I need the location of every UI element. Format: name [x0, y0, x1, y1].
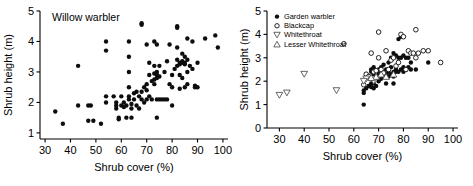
data-point-0	[53, 109, 57, 113]
data-point-0	[203, 36, 207, 40]
data-point-1	[376, 56, 381, 61]
data-point-0	[139, 90, 143, 94]
data-point-0	[127, 70, 131, 74]
data-point-0	[362, 102, 366, 106]
data-point-1	[386, 67, 391, 72]
x-tick-label: 40	[298, 133, 310, 145]
data-point-0	[145, 82, 149, 86]
data-point-0	[147, 73, 151, 77]
data-point-1	[426, 48, 431, 53]
x-tick-label: 80	[397, 133, 409, 145]
data-point-1	[416, 51, 421, 56]
data-point-0	[124, 115, 128, 119]
x-axis-title: Shrub cover (%)	[323, 150, 402, 162]
data-point-0	[167, 42, 171, 46]
data-point-0	[414, 67, 418, 71]
x-tick-label: 30	[273, 133, 285, 145]
panel-title: Willow warbler	[52, 11, 120, 23]
data-point-0	[145, 88, 149, 92]
data-point-0	[165, 59, 169, 63]
x-axis-title: Shrub cover (%)	[94, 161, 173, 173]
data-point-0	[147, 61, 151, 65]
data-point-0	[409, 67, 413, 71]
x-tick-label: 70	[141, 144, 153, 156]
data-point-0	[111, 94, 115, 98]
data-point-0	[162, 70, 166, 74]
data-point-0	[381, 63, 385, 67]
data-point-0	[104, 39, 108, 43]
data-point-0	[119, 94, 123, 98]
data-point-0	[127, 97, 131, 101]
y-axis-title: Shrub height (m)	[2, 34, 14, 116]
x-tick-label: 90	[191, 144, 203, 156]
data-point-0	[76, 103, 80, 107]
x-tick-label: 40	[64, 144, 76, 156]
panel-willow-warbler: 1234530405060708090100Shrub cover (%)Shr…	[0, 0, 237, 186]
data-point-0	[391, 81, 395, 85]
data-point-1	[391, 56, 396, 61]
data-point-0	[384, 81, 388, 85]
legend-label-0: Garden warbler	[284, 12, 335, 21]
data-point-0	[155, 42, 159, 46]
data-point-1	[404, 67, 409, 72]
data-point-0	[129, 102, 133, 106]
data-point-0	[170, 103, 174, 107]
data-point-0	[127, 39, 131, 43]
data-point-0	[183, 62, 187, 66]
data-point-0	[137, 106, 141, 110]
data-point-0	[132, 97, 136, 101]
legend-marker-0	[275, 14, 279, 18]
y-tick-label: 5	[255, 5, 261, 17]
data-point-1	[421, 48, 426, 53]
data-point-2	[276, 92, 283, 98]
y-tick-label: 3	[255, 52, 261, 64]
data-point-0	[175, 26, 179, 30]
data-point-0	[129, 106, 133, 110]
x-tick-label: 30	[39, 144, 51, 156]
data-point-0	[190, 39, 194, 43]
data-point-0	[155, 115, 159, 119]
data-point-0	[127, 85, 131, 89]
data-point-1	[411, 51, 416, 56]
data-point-1	[438, 60, 443, 65]
data-point-1	[376, 30, 381, 35]
legend-label-3: Lesser Whitethroat	[284, 40, 346, 49]
data-point-0	[185, 70, 189, 74]
data-point-0	[152, 64, 156, 68]
data-point-0	[178, 87, 182, 91]
data-point-0	[195, 85, 199, 89]
data-point-0	[409, 60, 413, 64]
data-point-0	[213, 33, 217, 37]
x-tick-label: 90	[422, 133, 434, 145]
y-tick-label: 5	[28, 5, 34, 17]
data-point-0	[180, 76, 184, 80]
y-tick-label: 1	[255, 99, 261, 111]
data-point-0	[157, 74, 161, 78]
data-point-0	[99, 122, 103, 126]
y-tick-label: 4	[28, 35, 34, 47]
data-point-0	[150, 97, 154, 101]
data-point-1	[369, 51, 374, 56]
data-point-0	[145, 42, 149, 46]
data-point-0	[139, 23, 143, 27]
data-point-0	[114, 100, 118, 104]
data-point-0	[165, 97, 169, 101]
data-point-0	[89, 103, 93, 107]
data-point-0	[170, 85, 174, 89]
y-tick-label: 4	[255, 28, 261, 40]
data-point-0	[76, 64, 80, 68]
panel-four-species: 01234530405060708090100Shrub cover (%)Sh…	[236, 0, 473, 186]
data-point-0	[406, 56, 410, 60]
data-point-0	[374, 84, 378, 88]
legend-label-1: Blackcap	[284, 21, 314, 30]
data-point-0	[127, 55, 131, 59]
data-point-0	[124, 103, 128, 107]
scatter-plot-right: 01234530405060708090100Shrub cover (%)Sh…	[236, 0, 473, 186]
data-point-1	[396, 60, 401, 65]
data-point-0	[170, 73, 174, 77]
data-point-0	[114, 106, 118, 110]
data-point-2	[333, 88, 340, 94]
x-tick-label: 60	[348, 133, 360, 145]
x-tick-label: 80	[166, 144, 178, 156]
x-tick-label: 100	[214, 144, 232, 156]
